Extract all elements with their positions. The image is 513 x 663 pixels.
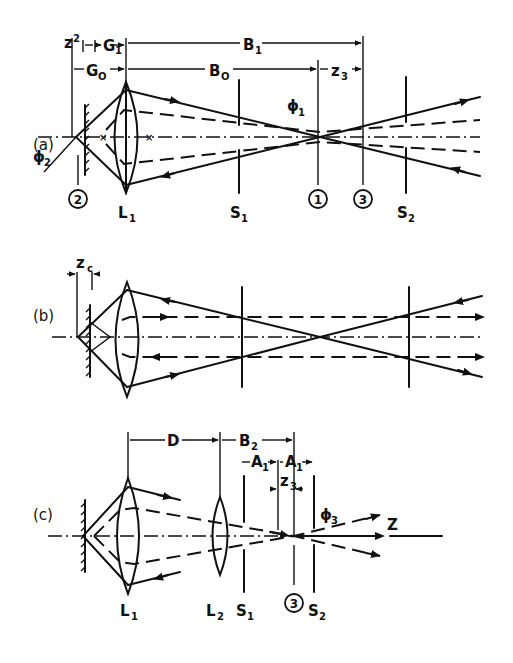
l1-label: L	[118, 204, 128, 222]
b1-sub: 1	[255, 45, 262, 56]
z3-sub: 3	[290, 481, 297, 492]
zc-sub: c	[87, 263, 93, 274]
marker-3-text: 3	[359, 193, 367, 207]
ray-dashed	[106, 142, 480, 164]
a1b-sub: 1	[296, 462, 303, 473]
b0-label: B	[209, 62, 220, 80]
panel-b: (b) z c	[33, 254, 484, 397]
ray-solid	[127, 290, 320, 337]
focal-mark: ×	[99, 132, 107, 143]
ray-solid	[128, 487, 180, 500]
ray-arrow	[158, 495, 168, 497]
panel-c-label: (c)	[33, 506, 53, 524]
g1-label: G	[103, 37, 115, 55]
z2-sub: 2	[73, 33, 80, 44]
focal-mark: ×	[145, 132, 153, 143]
s1-label: S	[230, 204, 241, 222]
zc-label: z	[76, 254, 85, 272]
s1-sub: 1	[241, 213, 248, 224]
s2-label: S	[308, 602, 319, 620]
s2-label: S	[397, 204, 408, 222]
d-label: D	[167, 432, 179, 450]
ray-arrow	[366, 553, 376, 555]
ray-solid	[128, 572, 180, 585]
a1-sub: 1	[262, 462, 269, 473]
phi3-sub: 3	[331, 515, 338, 526]
g0-label: G	[86, 62, 98, 80]
b2-sub: 2	[251, 441, 258, 452]
g1-sub: 1	[115, 45, 122, 56]
s2-sub: 2	[408, 213, 415, 224]
ray-arrow	[366, 516, 376, 519]
b0-sub: O	[221, 71, 230, 82]
s2-sub: 2	[319, 611, 326, 622]
z3-label: z	[331, 62, 340, 80]
z3-label: z	[280, 472, 289, 490]
marker-2-text: 2	[74, 193, 82, 207]
s1-sub: 1	[247, 611, 254, 622]
optical-diagram: (a) z 2 G 1 B 1 G O B O z 3	[0, 0, 513, 663]
ray-dashed	[122, 354, 482, 357]
ray-arrow	[165, 375, 175, 377]
panel-c: (c) Z D B 2 A 1 A 1 z 3	[33, 432, 442, 622]
ray-arrow	[458, 300, 468, 302]
l1-sub: 1	[131, 611, 138, 622]
z2-label: z	[64, 34, 73, 52]
phi1-sub: 1	[298, 107, 305, 118]
panel-a: (a) z 2 G 1 B 1 G O B O z 3	[33, 33, 480, 224]
b2-label: B	[239, 432, 250, 450]
ray-solid	[76, 137, 126, 185]
ray-solid	[76, 90, 126, 137]
l1-sub: 1	[129, 213, 136, 224]
ray-solid	[126, 137, 320, 185]
l2-sub: 2	[217, 611, 224, 622]
marker-3-text: 3	[290, 597, 298, 611]
marker-1-text: 1	[314, 193, 322, 207]
ray-dashed	[122, 317, 482, 320]
s1-label: S	[236, 602, 247, 620]
g0-sub: O	[98, 71, 107, 82]
l2-label: L	[206, 602, 216, 620]
ray-solid	[127, 337, 320, 387]
z-axis-label: Z	[387, 516, 398, 534]
panel-b-label: (b)	[33, 307, 54, 325]
z3-sub: 3	[341, 71, 348, 82]
l1-label: L	[120, 602, 130, 620]
mirror	[85, 104, 89, 175]
mirror	[86, 305, 90, 377]
b1-label: B	[243, 36, 254, 54]
